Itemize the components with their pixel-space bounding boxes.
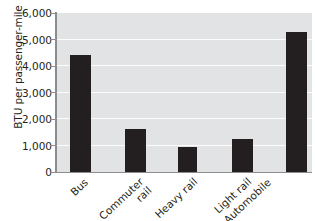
bar-chart: BTU per passenger-mile 6,000 5,000 4,000… <box>0 0 315 221</box>
bars-layer <box>57 13 312 172</box>
x-tick-label-commuter-rail: Commuter rail <box>97 176 154 221</box>
y-tick-mark-5000 <box>50 39 56 40</box>
bar-bus <box>70 55 91 172</box>
y-tick-label-3000: 3,000 <box>10 88 52 99</box>
y-tick-label-5000: 5,000 <box>10 35 52 46</box>
y-tick-mark-1000 <box>50 145 56 146</box>
y-tick-label-2000: 2,000 <box>10 114 52 125</box>
x-axis-tick-labels: Bus Commuter rail Heavy rail Light rail … <box>0 172 315 221</box>
bar-automobile <box>286 32 307 172</box>
bar-commuter-rail <box>125 129 146 172</box>
bar-light-rail <box>232 139 253 172</box>
y-tick-label-1000: 1,000 <box>10 141 52 152</box>
x-tick-label-bus: Bus <box>22 176 90 221</box>
y-tick-label-4000: 4,000 <box>10 61 52 72</box>
y-tick-mark-6000 <box>50 13 56 14</box>
plot-area <box>57 13 312 172</box>
bar-heavy-rail <box>178 147 197 172</box>
y-tick-label-6000: 6,000 <box>10 8 52 19</box>
y-tick-mark-3000 <box>50 92 56 93</box>
x-tick-label-heavy-rail: Heavy rail <box>151 176 200 221</box>
y-tick-mark-4000 <box>50 66 56 67</box>
y-tick-mark-2000 <box>50 119 56 120</box>
